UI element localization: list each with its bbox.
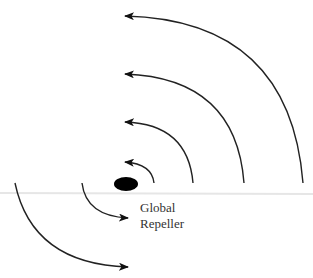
repeller-label-line1: Global [140, 200, 175, 216]
baseline [0, 193, 313, 194]
flow-arc-4-arrow-icon [125, 16, 303, 183]
repeller-label-line2: Repeller [140, 216, 184, 232]
flow-arc-2-arrow-icon [125, 122, 193, 183]
flow-diagram [0, 0, 313, 278]
flow-arc-6-arrow-icon [15, 183, 128, 267]
global-repeller-dot-icon [114, 177, 138, 191]
